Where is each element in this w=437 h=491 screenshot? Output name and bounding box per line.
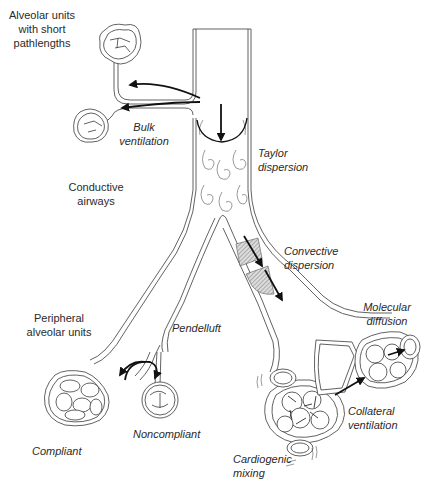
label-peripheral-alveolar: Peripheral alveolar units	[24, 311, 94, 339]
label-convective-dispersion: Convective dispersion	[284, 244, 338, 272]
label-line: diffusion	[358, 314, 416, 328]
label-line: Peripheral	[24, 311, 94, 325]
label-line: Conductive	[60, 180, 132, 194]
label-alveolar-short: Alveolar units with short pathlengths	[0, 8, 84, 50]
label-collateral-ventilation: Collateral ventilation	[348, 404, 398, 432]
label-line: Molecular	[358, 300, 416, 314]
convective-hatching	[236, 238, 274, 294]
label-cardiogenic-mixing: Cardiogenic mixing	[233, 452, 292, 480]
label-line: Collateral	[348, 404, 398, 418]
alveolar-clusters	[44, 24, 420, 456]
label-molecular-diffusion: Molecular diffusion	[358, 300, 416, 328]
label-line: with short	[0, 22, 84, 36]
label-line: Convective	[284, 244, 338, 258]
label-line: mixing	[233, 466, 292, 480]
label-line: alveolar units	[24, 325, 94, 339]
label-line: pathlengths	[0, 36, 84, 50]
label-line: ventilation	[348, 418, 398, 432]
bulk-lower-arrow	[122, 102, 200, 108]
label-line: airways	[60, 194, 132, 208]
bulk-upper-arrow	[130, 84, 200, 98]
label-line: dispersion	[258, 160, 308, 174]
label-noncompliant: Noncompliant	[133, 427, 200, 441]
label-taylor-dispersion: Taylor dispersion	[258, 146, 308, 174]
label-bulk-ventilation: Bulk ventilation	[116, 120, 172, 148]
label-line: Cardiogenic	[233, 452, 292, 466]
label-line: ventilation	[116, 134, 172, 148]
diagram-canvas: Alveolar units with short pathlengths Bu…	[0, 0, 437, 491]
label-conductive-airways: Conductive airways	[60, 180, 132, 208]
label-line: Bulk	[116, 120, 172, 134]
label-line: dispersion	[284, 258, 338, 272]
label-compliant: Compliant	[32, 444, 82, 458]
label-line: Alveolar units	[0, 8, 84, 22]
wavefront-curve	[197, 118, 247, 142]
label-line: Taylor	[258, 146, 308, 160]
label-pendelluft: Pendelluft	[172, 321, 221, 335]
